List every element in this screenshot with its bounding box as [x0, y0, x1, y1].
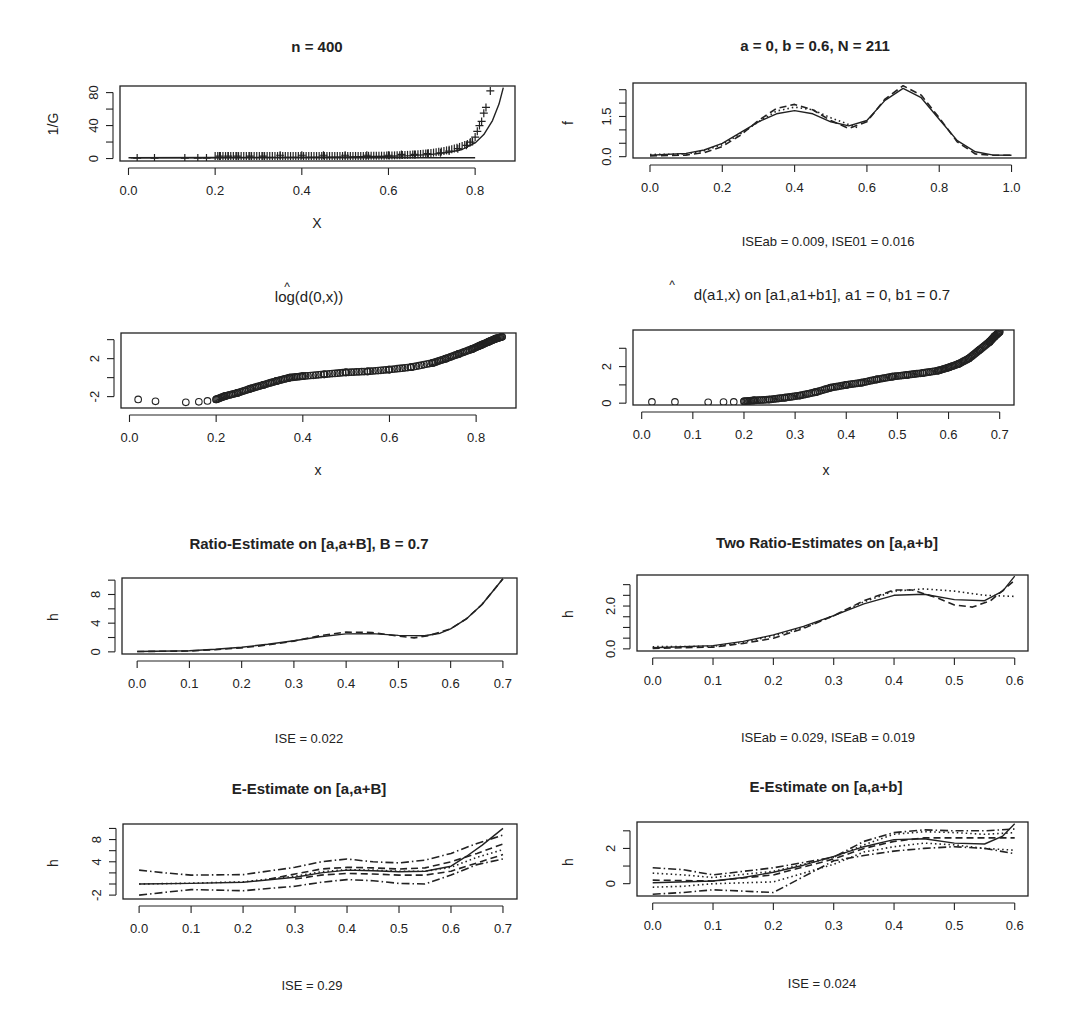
x-tick-label: 0.2 — [735, 427, 753, 442]
panel-8-ylabel: h — [560, 858, 576, 866]
x-tick-label: 0.4 — [294, 430, 312, 445]
x-tick-label: 0.6 — [380, 430, 398, 445]
x-tick-label: 0.5 — [945, 918, 963, 933]
x-tick-label: 0.1 — [684, 427, 702, 442]
y-tick-label: -2 — [89, 889, 104, 901]
panel-1-ylabel: 1/G — [45, 113, 61, 136]
y-tick-label: 4 — [88, 620, 103, 627]
x-tick-label: 0.8 — [930, 180, 948, 195]
x-tick-label: 0.1 — [182, 921, 200, 936]
x-tick-label: 0.4 — [337, 676, 355, 691]
x-tick-label: 1.0 — [1002, 180, 1020, 195]
panel-2-ylabel: f — [560, 121, 576, 125]
x-tick-label: 0.1 — [704, 673, 722, 688]
x-tick-label: 0.4 — [293, 183, 311, 198]
y-tick-label: 2 — [87, 355, 102, 362]
x-tick-label: 0.0 — [644, 673, 662, 688]
y-tick-label: 0 — [599, 400, 614, 407]
y-tick-label: 0 — [86, 155, 101, 162]
x-tick-label: 0.6 — [379, 183, 397, 198]
x-tick-label: 0.1 — [704, 918, 722, 933]
x-tick-label: 0.6 — [442, 921, 460, 936]
x-tick-label: 0.7 — [991, 427, 1009, 442]
y-tick-label: 2 — [603, 845, 618, 852]
x-tick-label: 0.8 — [467, 430, 485, 445]
x-tick-label: 0.3 — [786, 427, 804, 442]
panel-1-xlabel: X — [312, 215, 322, 231]
y-tick-label: 2.0 — [603, 597, 618, 615]
panel-3-xlabel: x — [315, 462, 322, 478]
x-tick-label: 0.3 — [285, 676, 303, 691]
panel-1-title: n = 400 — [291, 38, 342, 55]
x-tick-label: 0.1 — [180, 676, 198, 691]
multi-panel-chart: n = 400 1/G X 0.00.20.40.60.804080 a = 0… — [0, 0, 1077, 1026]
panel-6-subtitle: ISEab = 0.029, ISEaB = 0.019 — [741, 730, 915, 745]
x-tick-label: 0.6 — [940, 427, 958, 442]
x-tick-label: 0.0 — [120, 430, 138, 445]
y-tick-label: 80 — [86, 85, 101, 99]
x-tick-label: 0.8 — [466, 183, 484, 198]
x-tick-label: 0.3 — [825, 673, 843, 688]
hat-accent: ^ — [284, 280, 290, 294]
panel-6-title: Two Ratio-Estimates on [a,a+b] — [716, 534, 938, 551]
x-tick-label: 0.0 — [641, 180, 659, 195]
x-tick-label: 0.6 — [858, 180, 876, 195]
x-tick-label: 0.3 — [825, 918, 843, 933]
x-tick-label: 0.0 — [119, 183, 137, 198]
x-tick-label: 0.2 — [234, 921, 252, 936]
x-tick-label: 0.4 — [338, 921, 356, 936]
y-tick-label: 2 — [599, 363, 614, 370]
hat-accent: ^ — [669, 278, 675, 292]
x-tick-label: 0.6 — [1006, 673, 1024, 688]
panel-2-title: a = 0, b = 0.6, N = 211 — [740, 37, 890, 54]
x-tick-label: 0.5 — [945, 673, 963, 688]
panel-4-title: d(a1,x) on [a1,a1+b1], a1 = 0, b1 = 0.7 — [694, 286, 950, 303]
y-tick-label: 1.5 — [599, 107, 614, 125]
x-tick-label: 0.2 — [764, 673, 782, 688]
panel-5-title: Ratio-Estimate on [a,a+B], B = 0.7 — [189, 535, 428, 552]
panel-5-ylabel: h — [45, 613, 61, 621]
x-tick-label: 0.2 — [713, 180, 731, 195]
x-tick-label: 0.7 — [494, 676, 512, 691]
panel-6-ylabel: h — [560, 610, 576, 618]
x-tick-label: 0.2 — [233, 676, 251, 691]
panel-7-ylabel: h — [45, 859, 61, 867]
panel-8-subtitle: ISE = 0.024 — [788, 976, 856, 991]
y-tick-label: 0 — [88, 648, 103, 655]
panel-2-subtitle: ISEab = 0.009, ISE01 = 0.016 — [742, 234, 915, 249]
x-tick-label: 0.2 — [207, 430, 225, 445]
y-tick-label: 40 — [86, 118, 101, 132]
x-tick-label: 0.5 — [888, 427, 906, 442]
y-tick-label: 8 — [88, 591, 103, 598]
x-tick-label: 0.6 — [1006, 918, 1024, 933]
panel-4-xlabel: x — [823, 462, 830, 478]
y-tick-label: 0 — [603, 880, 618, 887]
x-tick-label: 0.3 — [286, 921, 304, 936]
panel-7-subtitle: ISE = 0.29 — [281, 978, 342, 993]
x-tick-label: 0.4 — [837, 427, 855, 442]
x-tick-label: 0.0 — [644, 918, 662, 933]
x-tick-label: 0.4 — [885, 673, 903, 688]
y-tick-label: 8 — [89, 836, 104, 843]
x-tick-label: 0.0 — [130, 921, 148, 936]
y-tick-label: 0.0 — [603, 640, 618, 658]
panel-7-title: E-Estimate on [a,a+B] — [232, 780, 387, 797]
x-tick-label: 0.2 — [764, 918, 782, 933]
x-tick-label: 0.5 — [390, 921, 408, 936]
figure: n = 400 1/G X 0.00.20.40.60.804080 a = 0… — [0, 0, 1077, 1026]
x-tick-label: 0.4 — [786, 180, 804, 195]
y-tick-label: 0.0 — [599, 148, 614, 166]
panel-5-subtitle: ISE = 0.022 — [275, 731, 343, 746]
x-tick-label: 0.7 — [494, 921, 512, 936]
x-tick-label: 0.0 — [633, 427, 651, 442]
x-tick-label: 0.0 — [128, 676, 146, 691]
x-tick-label: 0.6 — [442, 676, 460, 691]
y-tick-label: -2 — [87, 391, 102, 403]
x-tick-label: 0.2 — [206, 183, 224, 198]
x-tick-label: 0.5 — [389, 676, 407, 691]
panel-8-title: E-Estimate on [a,a+b] — [750, 778, 903, 795]
y-tick-label: 4 — [89, 858, 104, 865]
x-tick-label: 0.4 — [885, 918, 903, 933]
